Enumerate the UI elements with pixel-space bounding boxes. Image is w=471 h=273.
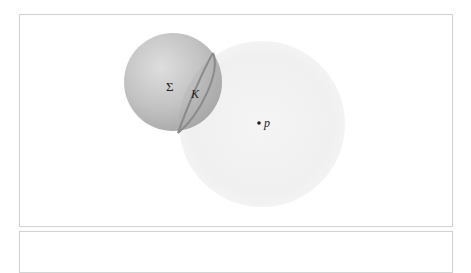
point-p bbox=[257, 121, 261, 125]
label-sigma: Σ bbox=[166, 79, 174, 94]
label-p: p bbox=[263, 116, 270, 130]
label-k: K bbox=[190, 87, 200, 101]
